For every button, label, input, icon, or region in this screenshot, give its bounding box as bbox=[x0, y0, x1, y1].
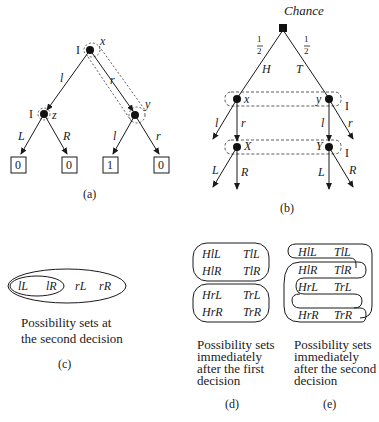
game-tree-b bbox=[213, 24, 353, 189]
chance-label: Chance bbox=[284, 3, 324, 19]
set-item: rL bbox=[75, 279, 86, 294]
node-label-Y: Y bbox=[316, 139, 323, 154]
set-item: HlL bbox=[298, 245, 317, 260]
caption-e: (e) bbox=[323, 397, 336, 412]
node-label-x: x bbox=[100, 34, 105, 49]
player-label: I bbox=[345, 146, 349, 161]
edge-l bbox=[47, 50, 90, 110]
set-item: TlL bbox=[334, 245, 351, 260]
prob-numerator: 1 bbox=[304, 34, 309, 44]
node-X bbox=[233, 143, 241, 151]
set-item: TrR bbox=[334, 308, 352, 323]
payoff-value: 0 bbox=[158, 158, 164, 173]
node-label-y: y bbox=[145, 97, 150, 112]
set-item: TrR bbox=[243, 305, 261, 320]
player-label: I bbox=[345, 99, 349, 114]
caption-c: (c) bbox=[58, 357, 71, 372]
edge-label-r: r bbox=[348, 116, 353, 131]
node-y bbox=[325, 95, 333, 103]
info-set-corridor bbox=[88, 46, 145, 122]
edge-label-L: L bbox=[18, 129, 25, 144]
payoff-value: 1 bbox=[107, 158, 113, 173]
set-outline-left bbox=[284, 262, 366, 322]
node-label-z: z bbox=[52, 108, 57, 123]
edge-label-L: L bbox=[318, 165, 325, 180]
prob-numerator: 1 bbox=[257, 34, 262, 44]
payoff-value: 0 bbox=[15, 158, 21, 173]
prob-denominator: 2 bbox=[304, 46, 309, 56]
set-item: lL bbox=[18, 279, 28, 294]
payoff-value: 0 bbox=[66, 158, 72, 173]
edge-label-L: L bbox=[212, 163, 219, 178]
player-label: I bbox=[29, 107, 33, 122]
set-item: rR bbox=[99, 279, 111, 294]
player-label: I bbox=[76, 43, 80, 58]
node-x bbox=[233, 95, 241, 103]
description: the second decision bbox=[21, 333, 123, 345]
node-y bbox=[131, 111, 139, 119]
set-outline-curve bbox=[354, 294, 362, 308]
set-item: HlR bbox=[202, 264, 221, 279]
set-item: TlL bbox=[243, 247, 260, 262]
prob-denominator: 2 bbox=[257, 46, 262, 56]
set-item: HrR bbox=[202, 305, 223, 320]
edge-label-l: l bbox=[215, 116, 218, 131]
node-x bbox=[86, 46, 94, 54]
set-item: lR bbox=[46, 279, 57, 294]
caption-b: (b) bbox=[280, 201, 294, 216]
info-set-lower bbox=[225, 140, 341, 154]
set-item: TrL bbox=[334, 280, 351, 295]
edge-label-R: R bbox=[63, 129, 70, 144]
edge-label-R: R bbox=[349, 163, 356, 178]
node-label-y: y bbox=[316, 92, 321, 107]
edge-label-l: l bbox=[321, 116, 324, 131]
node-Y bbox=[325, 143, 333, 151]
set-item: TrL bbox=[243, 288, 260, 303]
edge-label-r: r bbox=[110, 73, 115, 88]
info-set-upper bbox=[225, 92, 341, 106]
node-label-X: X bbox=[244, 139, 251, 154]
set-item: HrL bbox=[298, 280, 318, 295]
edge-label-R: R bbox=[241, 165, 248, 180]
description: decision bbox=[294, 375, 337, 387]
set-item: TlR bbox=[243, 264, 260, 279]
description: decision bbox=[197, 375, 240, 387]
set-item: TlR bbox=[334, 263, 351, 278]
edge-label-l: l bbox=[113, 129, 116, 144]
edge-label-r: r bbox=[241, 116, 246, 131]
edge-label-T: T bbox=[296, 62, 303, 77]
node-label-x: x bbox=[244, 92, 249, 107]
edge-label-H: H bbox=[262, 62, 271, 77]
caption-d: (d) bbox=[225, 397, 239, 412]
set-item: HlL bbox=[202, 247, 221, 262]
caption-a: (a) bbox=[83, 187, 96, 202]
set-item: HrR bbox=[298, 308, 319, 323]
description: Possibility sets at bbox=[21, 317, 111, 329]
edge-label-r: r bbox=[156, 129, 161, 144]
set-item: HlR bbox=[298, 263, 317, 278]
set-item: HrL bbox=[202, 288, 222, 303]
edge-label-l: l bbox=[60, 71, 63, 86]
node-z bbox=[40, 110, 48, 118]
